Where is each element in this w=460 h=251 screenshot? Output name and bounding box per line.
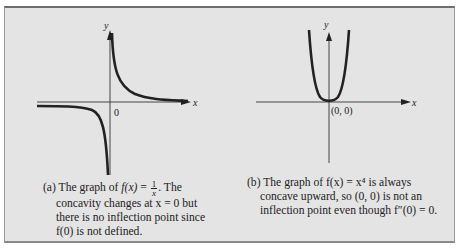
- graph-a: [37, 30, 191, 175]
- caption-a-line1: (a) The graph of f(x) = 1x. The: [43, 180, 233, 197]
- caption-a: (a) The graph of f(x) = 1x. The concavit…: [43, 180, 233, 239]
- caption-b: (b) The graph of f(x) = x⁴ is always con…: [247, 176, 457, 218]
- caption-a-denominator: x: [151, 189, 158, 197]
- caption-a-line3: there is no inflection point since: [43, 211, 233, 225]
- graph-a-curve-right: [112, 33, 188, 101]
- graph-a-origin-label: 0: [114, 106, 119, 120]
- caption-b-line3: inflection point even though f″(0) = 0.: [247, 204, 457, 218]
- graph-b-origin-label: (0, 0): [331, 104, 353, 118]
- caption-b-line1: (b) The graph of f(x) = x⁴ is always: [247, 176, 457, 190]
- graph-b-y-arrow-icon: [326, 32, 332, 41]
- caption-b-line2: concave upward, so (0, 0) is not an: [247, 190, 457, 204]
- caption-a-func: f(x): [121, 181, 137, 194]
- caption-a-line4: f(0) is not defined.: [43, 225, 233, 239]
- graph-b-x-label: x: [412, 96, 416, 110]
- graph-a-x-label: x: [193, 96, 197, 110]
- caption-a-after: . The: [158, 181, 182, 194]
- graph-b: [256, 30, 411, 163]
- graph-a-curve-left: [37, 106, 108, 175]
- caption-a-prefix: (a) The graph of: [43, 181, 121, 194]
- graph-b-x-arrow-icon: [401, 99, 411, 105]
- caption-a-fraction: 1x: [151, 180, 158, 197]
- caption-a-eq: =: [137, 181, 149, 194]
- graph-b-y-label: y: [324, 18, 328, 32]
- caption-a-line2: concavity changes at x = 0 but: [43, 197, 233, 211]
- graph-a-y-label: y: [104, 19, 108, 33]
